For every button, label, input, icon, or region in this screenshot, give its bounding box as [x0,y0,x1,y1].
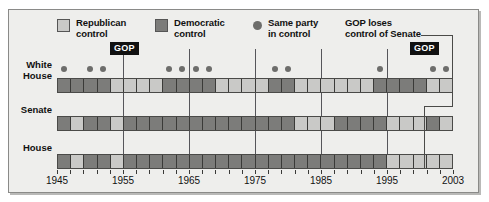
heatmap-cell [440,117,452,130]
same-party-dot [443,66,449,72]
gop-badge-left: GOP [110,42,139,55]
axis-tick [427,170,428,174]
heatmap-cell [229,79,242,92]
chart-figure: Republican control Democratic control Sa… [0,0,489,202]
same-party-dot [206,66,212,72]
heatmap-cell [190,79,203,92]
heatmap-cell [190,155,203,168]
heatmap-cell [440,79,452,92]
heatmap-cell [427,117,440,130]
heatmap-cell [387,117,400,130]
heatmap-cell [400,117,413,130]
axis-tick [242,170,243,174]
axis-tick [229,170,230,174]
heatmap-cell [374,155,387,168]
heatmap-cell [216,79,229,92]
heatmap-cell [58,79,71,92]
legend-label-republican: Republican control [76,18,126,39]
heatmap-cell [427,155,440,168]
heatmap-cell [361,79,374,92]
same-party-dot [285,66,291,72]
heatmap-cell [387,155,400,168]
heatmap-cell [163,155,176,168]
axis-tick [281,170,282,174]
heatmap-cell [84,117,97,130]
heatmap-cell [414,79,427,92]
heatmap-cell [242,155,255,168]
heatmap-cell [256,117,269,130]
heatmap-cell [124,155,137,168]
same-party-dot [61,66,67,72]
axis-tick [334,170,335,174]
heatmap-cell [84,155,97,168]
axis-tick [413,170,414,174]
axis-tick [97,170,98,174]
axis-tick [176,170,177,174]
heatmap-cell [256,155,269,168]
same-party-dot [193,66,199,72]
same-party-dot [272,66,278,72]
heatmap-cell [308,79,321,92]
heatmap-cell [256,79,269,92]
heatmap-cell [295,155,308,168]
heatmap-cell [348,155,361,168]
heatmap-cell [321,79,334,92]
heatmap-cell [348,117,361,130]
axis-year-label: 1945 [46,175,68,186]
heatmap-cell [124,117,137,130]
row-white-house [57,78,453,93]
axis-tick [189,170,190,174]
heatmap-cell [177,79,190,92]
heatmap-cell [150,79,163,92]
same-party-dot-icon [253,21,262,30]
axis-tick [387,170,388,174]
gop-badge-right: GOP [410,42,439,55]
axis-tick [268,170,269,174]
heatmap-cell [440,155,452,168]
heatmap-cell [111,117,124,130]
same-party-dot [100,66,106,72]
heatmap-cell [295,79,308,92]
axis-tick [70,170,71,174]
axis-tick [361,170,362,174]
heatmap-cell [387,79,400,92]
heatmap-cell [150,117,163,130]
heatmap-cell [111,79,124,92]
heatmap-cell [111,155,124,168]
heatmap-cell [361,155,374,168]
heatmap-cell [295,117,308,130]
axis-tick [163,170,164,174]
axis-year-label: 1955 [112,175,134,186]
heatmap-cell [216,155,229,168]
heatmap-cell [269,79,282,92]
heatmap-cell [282,117,295,130]
heatmap-cell [282,155,295,168]
legend-item-republican-control: Republican control [57,18,126,39]
axis-tick [295,170,296,174]
heatmap-cell [216,117,229,130]
row-label-white-house: White House [0,60,52,81]
heatmap-cell [84,79,97,92]
callout-line-h1 [421,35,452,36]
democratic-swatch-icon [155,19,168,32]
axis-year-label: 1995 [376,175,398,186]
row-senate [57,116,453,131]
same-party-dot [430,66,436,72]
heatmap-cell [242,117,255,130]
heatmap-cell [308,117,321,130]
republican-swatch-icon [57,19,70,32]
heatmap-cell [203,117,216,130]
heatmap-cell [335,155,348,168]
heatmap-cell [98,117,111,130]
heatmap-cell [229,155,242,168]
heatmap-cell [98,79,111,92]
heatmap-cell [203,155,216,168]
decade-gridline [123,49,124,169]
heatmap-cell [361,117,374,130]
heatmap-cell [374,117,387,130]
heatmap-cell [374,79,387,92]
axis-tick [255,170,256,174]
heatmap-cell [400,155,413,168]
axis-tick [374,170,375,174]
heatmap-cell [348,79,361,92]
